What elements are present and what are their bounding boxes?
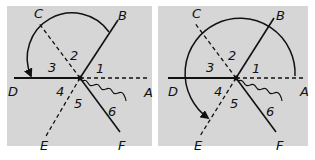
label-B: B [118, 8, 127, 23]
angle-5: 5 [230, 96, 238, 111]
angle-1: 1 [252, 61, 260, 76]
label-F: F [118, 138, 126, 153]
label-B: B [276, 8, 285, 23]
angle-2: 2 [228, 48, 236, 63]
center-point [234, 76, 239, 81]
label-C: C [34, 6, 44, 21]
left-diagram [14, 13, 148, 136]
angle-6: 6 [108, 104, 116, 119]
label-E: E [40, 138, 49, 153]
label-E: E [194, 138, 203, 153]
angle-6: 6 [266, 104, 274, 119]
angle-diagrams: C B D A E F 1 2 3 4 5 6 C B D A E F 1 2 … [0, 0, 315, 160]
label-C: C [192, 6, 202, 21]
right-labels: C B D A E F 1 2 3 4 5 6 [168, 6, 309, 153]
label-F: F [276, 138, 284, 153]
angle-3: 3 [48, 60, 56, 75]
label-D: D [168, 84, 178, 99]
label-A: A [143, 85, 153, 100]
arc-arrow-A-to-E [185, 18, 295, 118]
angle-2: 2 [70, 48, 78, 63]
label-D: D [8, 84, 18, 99]
angle-4: 4 [214, 84, 222, 99]
angle-5: 5 [74, 96, 82, 111]
label-A: A [299, 84, 309, 99]
angle-4: 4 [56, 84, 64, 99]
angle-1: 1 [96, 61, 104, 76]
angle-3: 3 [206, 60, 214, 75]
center-point [78, 76, 83, 81]
